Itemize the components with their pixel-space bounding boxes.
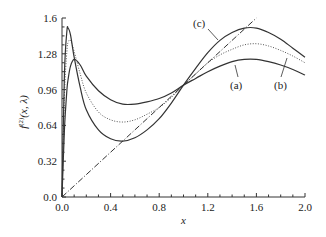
y-tick-label: 1.28	[38, 48, 58, 60]
series-reference-y-x	[62, 18, 256, 197]
y-tick-label: 0.0	[43, 191, 57, 203]
arrow-c	[208, 29, 218, 40]
x-tick-label: 0.0	[55, 201, 69, 213]
axes	[62, 18, 305, 197]
x-tick-label: 2.0	[298, 201, 312, 213]
ticks	[62, 18, 305, 197]
arrow-b	[281, 58, 287, 77]
y-tick-label: 1.6	[43, 12, 57, 24]
annotation-b: (b)	[274, 79, 287, 92]
arrow-a	[235, 65, 238, 77]
y-tick-label: 0.32	[38, 155, 57, 167]
x-tick-label: 1.6	[250, 201, 264, 213]
annotation-c: (c)	[193, 17, 206, 30]
series-a	[62, 59, 305, 197]
y-axis-label: f(2)(x, λ)	[17, 95, 30, 129]
x-tick-label: 0.4	[104, 201, 118, 213]
y-tick-label: 0.64	[38, 119, 58, 131]
x-axis-label: x	[180, 214, 186, 226]
tick-labels: 0.00.40.81.21.62.00.00.320.640.961.281.6	[38, 12, 313, 213]
x-tick-label: 1.2	[201, 201, 215, 213]
series-c	[62, 27, 305, 197]
series	[62, 18, 305, 197]
chart: 0.00.40.81.21.62.00.00.320.640.961.281.6…	[0, 0, 326, 237]
annotation-a: (a)	[230, 79, 243, 92]
series-b	[62, 40, 305, 197]
y-tick-label: 0.96	[38, 84, 58, 96]
svg-text:f(2)(x, λ): f(2)(x, λ)	[17, 95, 30, 129]
x-tick-label: 0.8	[152, 201, 166, 213]
